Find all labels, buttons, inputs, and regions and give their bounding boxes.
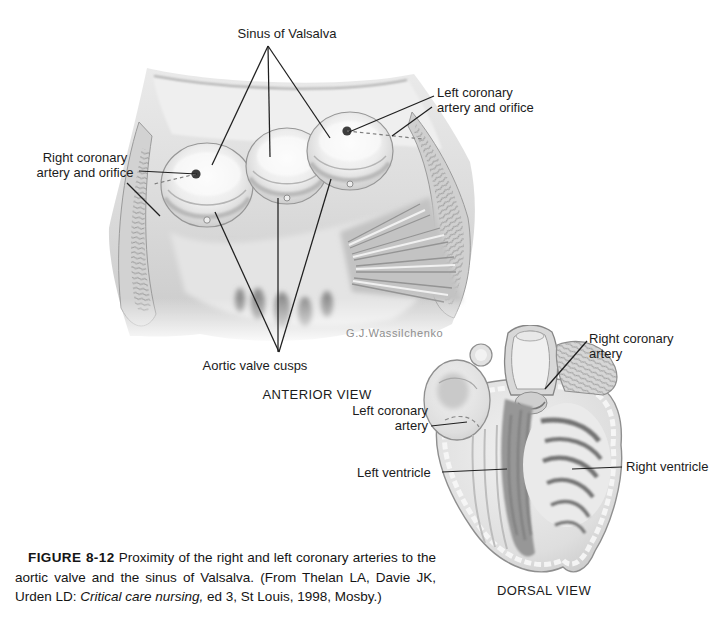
figure-caption: FIGURE 8-12 Proximity of the right and l… [15, 548, 436, 607]
textbook-figure-page: Sinus of Valsalva Right coronary artery … [0, 0, 722, 618]
vessel-stub [470, 344, 492, 366]
label-right-coronary-artery: Right coronary artery [589, 332, 709, 361]
label-sinus-of-valsalva: Sinus of Valsalva [227, 27, 347, 42]
caption-text-2: ed 3, St Louis, 1998, Mosby.) [203, 589, 381, 604]
label-left-coronary-artery-and-orifice: Left coronary artery and orifice [437, 86, 567, 115]
label-left-ventricle: Left ventricle [357, 466, 431, 481]
artist-signature: G.J.Wassilchenko [346, 326, 443, 341]
label-right-ventricle: Right ventricle [626, 460, 708, 475]
dorsal-view-illustration [415, 325, 715, 585]
dorsal-view-title: DORSAL VIEW [491, 584, 597, 599]
cusp-left-coronary [307, 112, 393, 190]
label-aortic-valve-cusps: Aortic valve cusps [198, 359, 312, 374]
label-right-coronary-artery-and-orifice: Right coronary artery and orifice [30, 151, 140, 180]
caption-book-title: Critical care nursing, [80, 589, 203, 604]
figure-number: FIGURE 8-12 [28, 550, 115, 565]
anterior-view-title: ANTERIOR VIEW [259, 388, 375, 403]
left-atrium [424, 360, 490, 440]
anterior-view-illustration [90, 52, 480, 345]
cusp-right-coronary [161, 143, 253, 227]
label-left-coronary-artery: Left coronary artery [348, 404, 428, 433]
